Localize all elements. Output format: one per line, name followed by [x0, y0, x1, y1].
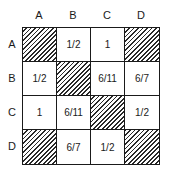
- matrix-grid: 1/2 1 1/2 6/11 6/7 1 6/11 1/2 6/7 1/2: [22, 27, 160, 165]
- column-header-b: B: [56, 9, 90, 21]
- row-header-a: A: [6, 27, 18, 61]
- cell-b-b-hatched: [57, 62, 91, 96]
- cell-a-b: 1/2: [57, 28, 91, 62]
- cell-d-a-hatched: [23, 130, 57, 164]
- row-header-b: B: [6, 61, 18, 95]
- cell-a-a-hatched: [23, 28, 57, 62]
- cell-c-b: 6/11: [57, 96, 91, 130]
- cell-a-c: 1: [91, 28, 125, 62]
- cell-d-c: 1/2: [91, 130, 125, 164]
- column-header-d: D: [124, 9, 158, 21]
- cell-b-a: 1/2: [23, 62, 57, 96]
- cell-d-b: 6/7: [57, 130, 91, 164]
- cell-b-c: 6/11: [91, 62, 125, 96]
- column-header-c: C: [90, 9, 124, 21]
- cell-c-a: 1: [23, 96, 57, 130]
- cell-c-c-hatched: [91, 96, 125, 130]
- row-header-c: C: [6, 95, 18, 129]
- cell-b-d: 6/7: [125, 62, 159, 96]
- cell-a-d-hatched: [125, 28, 159, 62]
- column-header-a: A: [22, 9, 56, 21]
- row-header-d: D: [6, 129, 18, 163]
- cell-c-d: 1/2: [125, 96, 159, 130]
- cell-d-d-hatched: [125, 130, 159, 164]
